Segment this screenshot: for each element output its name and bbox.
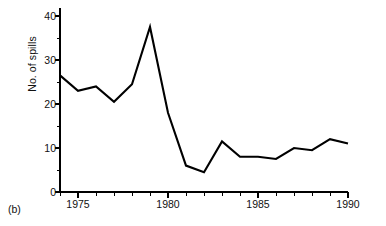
y-tick-label-0: 0 [30,187,56,198]
figure-panel-b: No. of spills 40 30 20 10 0 1975 1980 19… [0,0,386,226]
x-tick-label-1980: 1980 [148,199,188,210]
y-tick-label-40: 40 [30,11,56,22]
data-line-no-of-spills [60,27,348,172]
y-tick-label-10: 10 [30,143,56,154]
axes-group [55,8,348,198]
x-tick-label-1975: 1975 [58,199,98,210]
y-tick-label-30: 30 [30,55,56,66]
x-tick-label-1985: 1985 [238,199,278,210]
line-chart-plot [0,0,386,226]
data-series-group [60,27,348,172]
x-tick-label-1990: 1990 [328,199,368,210]
y-tick-label-20: 20 [30,99,56,110]
panel-caption: (b) [8,203,21,215]
